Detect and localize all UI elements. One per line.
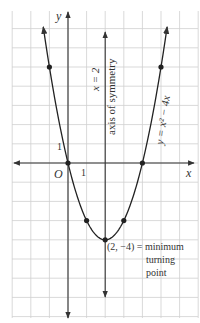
x-axis-label: x	[185, 166, 192, 180]
curve-equation-label: y = x² − 4x	[153, 95, 172, 147]
data-point	[121, 218, 126, 223]
data-point	[140, 160, 145, 165]
axis-equation-label: x = 2	[89, 67, 101, 92]
y-axis-label: y	[55, 9, 62, 23]
data-point	[47, 64, 52, 69]
axis-of-symmetry-label: axis of symmetry	[105, 58, 117, 135]
axes	[14, 12, 194, 318]
vertex-label-line1: (2, −4) = minimum	[107, 241, 184, 253]
data-point	[84, 218, 89, 223]
vertex-label-line3: point	[146, 267, 167, 278]
data-point	[65, 160, 70, 165]
vertex-label-line2: turning	[146, 254, 175, 265]
y-tick-1-label: 1	[57, 141, 62, 152]
origin-label: O	[54, 167, 63, 181]
x-tick-1-label: 1	[81, 167, 86, 178]
quadratic-graph: y x O 1 1 x = 2 axis of symmetry y = x² …	[0, 0, 200, 323]
data-point	[158, 64, 163, 69]
